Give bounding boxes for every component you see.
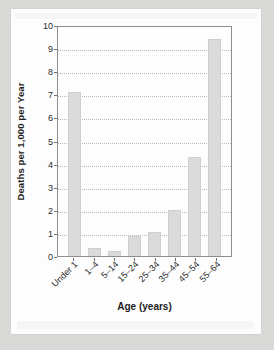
- bar: [168, 210, 181, 256]
- bar-slot: [64, 27, 84, 256]
- x-axis-tick-label: 25–34: [137, 260, 161, 284]
- y-axis-title: Deaths per 1,000 per Year: [13, 26, 27, 257]
- bar-slot: [185, 27, 205, 256]
- x-axis-tick-label: 55–64: [198, 260, 222, 284]
- bar: [68, 92, 81, 256]
- figure-paper: Deaths per 1,000 per Year 012345678910 U…: [11, 9, 261, 334]
- y-axis-tick-label: 7: [48, 91, 53, 100]
- y-axis-tick-labels: 012345678910: [37, 26, 53, 257]
- bar: [188, 157, 201, 256]
- x-axis-tick-label: 45–54: [178, 260, 202, 284]
- x-axis-tick-label: Under 1: [51, 260, 80, 289]
- bar: [108, 251, 121, 256]
- y-axis-tick-label: 3: [48, 183, 53, 192]
- bar-slot: [124, 27, 144, 256]
- y-axis-tick-label: 1: [48, 229, 53, 238]
- y-axis-tick-label: 0: [48, 253, 53, 262]
- bar-slot: [145, 27, 165, 256]
- y-axis-tick-label: 8: [48, 68, 53, 77]
- bar-series: [58, 27, 231, 256]
- x-axis-tick-label: 15–24: [117, 260, 141, 284]
- plot-area: [57, 26, 232, 257]
- bar-slot: [165, 27, 185, 256]
- x-axis-tick-labels: Under 11–45–1415–2425–3435–4445–5455–64: [57, 258, 232, 302]
- y-axis-tick-label: 4: [48, 160, 53, 169]
- y-axis-tick-label: 6: [48, 114, 53, 123]
- bar-slot: [84, 27, 104, 256]
- bar: [208, 39, 221, 256]
- bar: [128, 236, 141, 256]
- x-axis-title: Age (years): [57, 301, 232, 312]
- y-axis-tick-label: 5: [48, 137, 53, 146]
- bar-slot: [205, 27, 225, 256]
- y-axis-tick-label: 10: [43, 22, 53, 31]
- y-axis-tick-label: 2: [48, 206, 53, 215]
- figure-page: Deaths per 1,000 per Year 012345678910 U…: [0, 0, 274, 350]
- y-axis-tick-label: 9: [48, 45, 53, 54]
- bar-chart: Deaths per 1,000 per Year 012345678910 U…: [11, 9, 261, 334]
- x-axis-tick-label: 35–44: [157, 260, 181, 284]
- bar-slot: [104, 27, 124, 256]
- bar: [148, 232, 161, 256]
- x-axis-tick-label: 1–4: [83, 260, 100, 277]
- bar: [88, 248, 101, 256]
